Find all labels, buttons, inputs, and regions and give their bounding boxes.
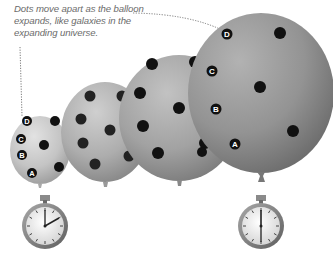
- label-a-large: A: [230, 139, 241, 150]
- balloon-1: D C B A: [10, 116, 70, 188]
- label-a-small: A: [27, 168, 37, 178]
- label-b-small: B: [17, 150, 27, 160]
- stopwatch-icon: [22, 195, 68, 249]
- svg-text:A: A: [29, 169, 35, 178]
- svg-text:A: A: [232, 140, 238, 149]
- svg-text:B: B: [213, 105, 219, 114]
- label-d-large: D: [222, 29, 233, 40]
- expanding-balloon-diagram: Dots move apart as the balloon expands, …: [0, 0, 333, 260]
- label-c-small: C: [16, 134, 26, 144]
- label-d-small: D: [22, 116, 32, 126]
- label-b-large: B: [211, 104, 222, 115]
- svg-text:B: B: [19, 151, 25, 160]
- stopwatch-icon: [238, 195, 284, 249]
- svg-text:D: D: [224, 30, 230, 39]
- label-c-large: C: [207, 66, 218, 77]
- svg-text:C: C: [209, 67, 215, 76]
- svg-text:C: C: [18, 135, 24, 144]
- svg-text:D: D: [24, 117, 30, 126]
